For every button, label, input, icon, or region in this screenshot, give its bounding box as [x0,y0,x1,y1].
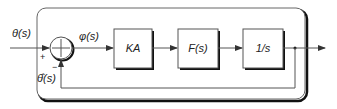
gain-block-label: KA [126,42,141,54]
block-diagram: θ(s) + − φ(s) KA F(s) 1/s θ̂(s) [0,0,337,109]
plus-sign: + [40,52,45,62]
filter-block-label: F(s) [188,42,208,54]
integrator-block-label: 1/s [256,42,271,54]
input-label: θ(s) [12,27,31,39]
error-label: φ(s) [79,30,99,42]
minus-sign: − [52,62,57,72]
feedback-label: θ̂(s) [37,72,56,84]
